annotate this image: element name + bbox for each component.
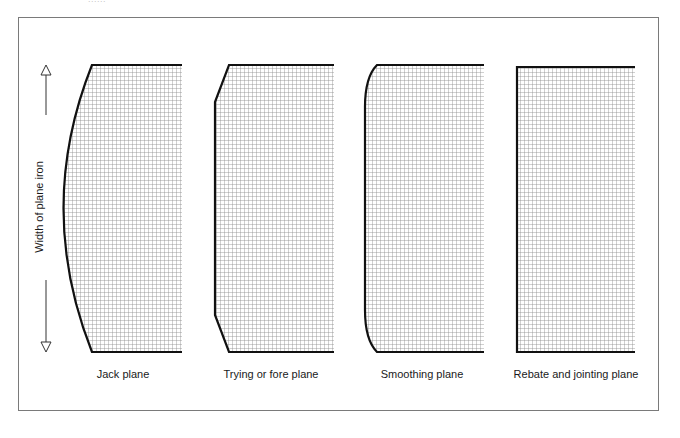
width-arrow-down-icon (41, 280, 51, 352)
caption-rebate-plane: Rebate and jointing plane (514, 368, 639, 380)
caption-trying-plane: Trying or fore plane (224, 368, 319, 380)
width-arrow-up-icon (41, 65, 51, 115)
rebate-plane-iron-profile (517, 67, 635, 352)
trying-plane-iron-profile (215, 65, 334, 352)
smoothing-plane-iron-profile (365, 65, 484, 352)
caption-jack-plane: Jack plane (97, 368, 150, 380)
caption-smoothing-plane: Smoothing plane (381, 368, 464, 380)
jack-plane-iron-profile (64, 65, 183, 352)
axis-label-width: Width of plane iron (33, 161, 45, 253)
